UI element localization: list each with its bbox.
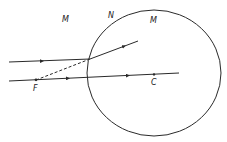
refracted-ray bbox=[90, 41, 138, 59]
upper-incident-ray bbox=[9, 59, 90, 62]
label-medium-right: M bbox=[150, 16, 157, 25]
spherical-surface bbox=[87, 10, 221, 136]
label-interface: N bbox=[108, 11, 114, 20]
label-focal-point: F bbox=[33, 84, 38, 93]
label-center: C bbox=[151, 78, 157, 87]
label-medium-left: M bbox=[62, 15, 69, 24]
refraction-diagram: M N M F C bbox=[0, 0, 227, 142]
dashed-construction-line bbox=[36, 59, 90, 80]
center-point-dot bbox=[153, 73, 155, 75]
focal-point-dot bbox=[35, 78, 38, 81]
